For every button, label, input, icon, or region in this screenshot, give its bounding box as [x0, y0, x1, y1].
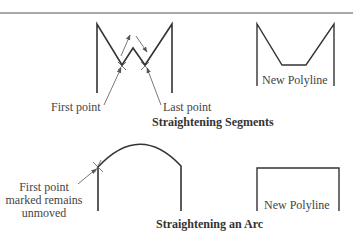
first-point-leader — [104, 68, 121, 105]
label-last-point: Last point — [163, 101, 211, 114]
leader-arrows — [104, 68, 161, 105]
caption-straightening-arc: Straightening an Arc — [156, 217, 263, 232]
label-first-point: First point — [51, 101, 101, 114]
original-polyline-segments — [97, 24, 172, 93]
last-point-leader — [147, 68, 161, 105]
original-arc — [98, 144, 181, 211]
label-new-polyline-bottom: New Polyline — [264, 199, 330, 212]
label-line-3: unmoved — [0, 207, 88, 220]
motion-arrows — [121, 35, 147, 56]
caption-straightening-segments: Straightening Segments — [152, 115, 274, 130]
arrow-down-icon — [136, 36, 147, 52]
label-first-point-marked: First point marked remains unmoved — [0, 181, 88, 220]
arrow-up-icon — [121, 35, 130, 56]
label-new-polyline-top: New Polyline — [262, 74, 328, 87]
